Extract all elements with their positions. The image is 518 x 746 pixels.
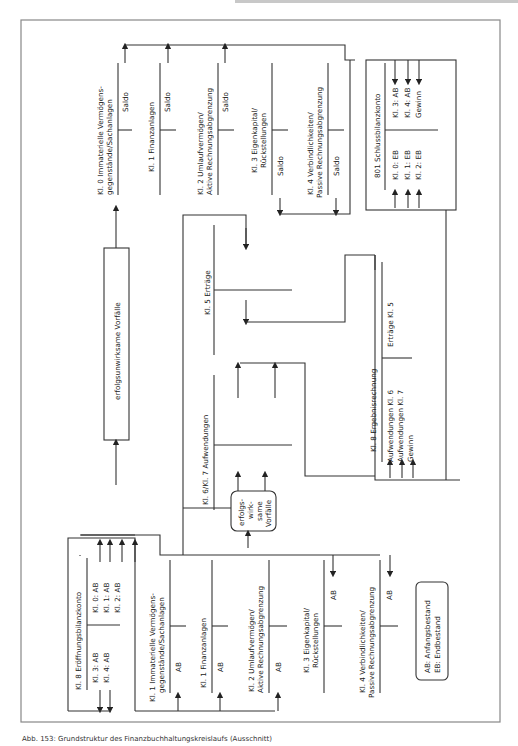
erfolgsunwirksame-vorfaelle: erfolgsunwirksame Vorfälle bbox=[104, 208, 129, 485]
account-kl3-bottom: Kl. 3 Eigenkapital/ Rückstellungen AB bbox=[302, 555, 342, 693]
box-label: erfolgsunwirksame Vorfälle bbox=[113, 302, 122, 400]
ab-label: AB bbox=[329, 590, 338, 600]
ab-label: AB bbox=[385, 590, 394, 600]
box-label: same bbox=[255, 501, 264, 521]
entry-label: Gewinn bbox=[406, 435, 415, 462]
bottom-accounts: Kl. 1 Immaterielle Vermögens- gegenständ… bbox=[148, 555, 398, 711]
account-title: Kl. 3 Eigenkapital/ bbox=[302, 608, 311, 673]
entry-label: Kl. 0: EB bbox=[391, 150, 400, 180]
entry-label: Gewinn bbox=[414, 91, 423, 118]
entry-label: Aufwendungen Kl. 6 bbox=[386, 389, 395, 462]
account-subtitle: gegenstände/Sachanlagen bbox=[105, 99, 114, 195]
account-kl67-aufwendungen: Kl. 6/Kl. 7 Aufwendungen bbox=[201, 363, 375, 510]
entry-label: Aufwendungen Kl. 7 bbox=[396, 390, 405, 462]
box-label: erfolgs- bbox=[237, 498, 246, 526]
account-title: Kl. 5 Erträge bbox=[203, 270, 212, 315]
box-label: wirk- bbox=[246, 501, 255, 519]
account-subtitle: gegenstände/Sachanlagen bbox=[157, 597, 166, 693]
erfolgswirksame-vorfaelle: erfolgs- wirk- same Vorfälle bbox=[183, 474, 276, 548]
saldo-label: Saldo bbox=[221, 92, 230, 112]
entry-label: Kl. 4: AB bbox=[403, 88, 412, 118]
account-kl2-top: Kl. 2 Umlaufvermögen/ Aktive Rechnungsab… bbox=[196, 63, 234, 195]
account-title: Kl. 4 Verbindlichkeiten/ bbox=[306, 112, 315, 195]
account-subtitle: Rückstellungen bbox=[311, 613, 320, 668]
account-kl4-bottom: Kl. 4 Verbindlichkeiten/ Passive Rechnun… bbox=[358, 555, 398, 698]
account-subtitle: Aktive Rechnungsabgrenzung bbox=[256, 586, 265, 693]
account-kl1-bottom: Kl. 1 Finanzanlagen AB bbox=[199, 560, 228, 711]
account-subtitle: Rückstellungen bbox=[259, 113, 268, 168]
account-kl4-top: Kl. 4 Verbindlichkeiten/ Passive Rechnun… bbox=[306, 63, 344, 213]
schlussbilanzkonto: 801 Schlussbilanzkonto Kl. 0: EB Kl. 1: … bbox=[366, 60, 456, 210]
account-kl0-bottom: Kl. 1 Immaterielle Vermögens- gegenständ… bbox=[148, 560, 186, 711]
eroeffnungsbilanzkonto: Kl. 8 Eröffnungsbilanzkonto Kl. 3: AB Kl… bbox=[68, 538, 135, 711]
account-title: 801 Schlussbilanzkonto bbox=[373, 94, 382, 178]
saldo-label: Saldo bbox=[163, 92, 172, 112]
account-kl2-bottom: Kl. 2 Umlaufvermögen/ Aktive Rechnungsab… bbox=[247, 560, 287, 711]
entry-label: Erträge Kl. 5 bbox=[386, 302, 395, 347]
account-kl0-top: Kl. 0 Immaterielle Vermögens- gegenständ… bbox=[96, 63, 132, 195]
account-title: Kl. 2 Umlaufvermögen/ bbox=[196, 112, 205, 195]
ab-label: AB bbox=[274, 662, 283, 672]
account-subtitle: Passive Rechnungsabgrenzung bbox=[315, 87, 324, 198]
entry-label: Kl. 0: AB bbox=[91, 583, 100, 613]
account-title: Kl. 1 Finanzanlagen bbox=[147, 102, 156, 172]
saldo-label: Saldo bbox=[121, 92, 130, 112]
saldo-label: Saldo bbox=[332, 156, 341, 176]
account-subtitle: Aktive Rechnungsabgrenzung bbox=[205, 88, 214, 195]
entry-label: Kl. 2: EB bbox=[414, 150, 423, 180]
entry-label: Kl. 1: AB bbox=[102, 583, 111, 613]
account-title: Kl. 1 Immaterielle Vermögens- bbox=[148, 593, 157, 702]
box-label: Vorfälle bbox=[264, 499, 273, 527]
account-subtitle: Passive Rechnungsabgrenzung bbox=[367, 587, 376, 698]
entry-label: Kl. 4: AB bbox=[102, 653, 111, 683]
ab-label: AB bbox=[174, 662, 183, 672]
account-title: Kl. 8 Eröffnungsbilanzkonto bbox=[74, 592, 83, 690]
account-title: Kl. 6/Kl. 7 Aufwendungen bbox=[201, 415, 210, 505]
account-title: Kl. 1 Finanzanlagen bbox=[199, 618, 208, 688]
account-kl3-top: Kl. 3 Eigenkapital/ Rückstellungen Saldo bbox=[250, 63, 288, 213]
entry-label: Kl. 2: AB bbox=[113, 583, 122, 613]
account-kl1-top: Kl. 1 Finanzanlagen Saldo bbox=[147, 63, 176, 195]
entry-label: Kl. 3: AB bbox=[91, 653, 100, 683]
account-title: Kl. 0 Immaterielle Vermögens- bbox=[96, 86, 105, 195]
entry-label: Kl. 1: EB bbox=[403, 150, 412, 180]
accounting-cycle-diagram: Kl. 0 Immaterielle Vermögens- gegenständ… bbox=[0, 0, 518, 746]
account-title: Kl. 4 Verbindlichkeiten/ bbox=[358, 610, 367, 693]
account-kl5-ertraege: Kl. 5 Erträge bbox=[183, 215, 375, 508]
legend-ab: AB: Anfangsbestand bbox=[423, 600, 432, 673]
legend: AB: Anfangsbestand EB: Endbestand bbox=[416, 582, 448, 680]
saldo-label: Saldo bbox=[276, 156, 285, 176]
ab-label: AB bbox=[216, 662, 225, 672]
account-title: Kl. 3 Eigenkapital/ bbox=[250, 108, 259, 173]
top-accounts: Kl. 0 Immaterielle Vermögens- gegenständ… bbox=[96, 45, 355, 214]
account-title: Kl. 2 Umlaufvermögen/ bbox=[247, 609, 256, 692]
legend-eb: EB: Endbestand bbox=[433, 616, 442, 673]
entry-label: Kl. 3: AB bbox=[391, 88, 400, 118]
account-title: Kl. 8 Ergebnisrechnung bbox=[369, 369, 378, 452]
figure-caption: Abb. 153: Grundstruktur des Finanzbuchha… bbox=[22, 735, 272, 743]
